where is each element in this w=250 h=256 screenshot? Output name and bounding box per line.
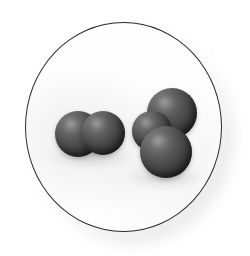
- molecular-model-image: [0, 0, 250, 256]
- disc-inner-haze: [26, 23, 221, 231]
- circular-frame: [25, 22, 222, 232]
